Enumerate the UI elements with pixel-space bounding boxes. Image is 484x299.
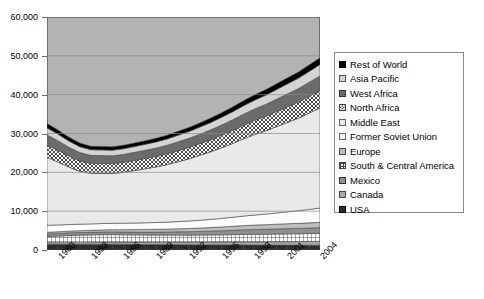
legend-item-label: Mexico (350, 175, 380, 186)
legend-item[interactable]: Mexico (339, 173, 463, 187)
legend-swatch-icon (339, 104, 346, 111)
chart-legend: Rest of WorldAsia PacificWest AfricaNort… (334, 52, 464, 213)
stacked-area-svg (47, 17, 320, 250)
x-axis: 198019831986198919921995199820012004 (0, 250, 484, 299)
legend-item-label: West Africa (350, 88, 398, 99)
y-axis: 010,00020,00030,00040,00050,00060,000 (0, 0, 47, 250)
legend-swatch-icon (339, 148, 346, 155)
legend-item-label: North Africa (350, 102, 400, 113)
legend-item-label: Rest of World (350, 59, 407, 70)
y-tick-label: 10,000 (10, 206, 38, 216)
y-tick-label: 50,000 (10, 51, 38, 61)
legend-item-label: Middle East (350, 117, 400, 128)
y-tick-label: 20,000 (10, 167, 38, 177)
legend-swatch-icon (339, 177, 346, 184)
legend-item[interactable]: Rest of World (339, 57, 463, 71)
chart-figure: 010,00020,00030,00040,00050,00060,000 19… (0, 0, 484, 299)
legend-item-label: USA (350, 204, 370, 215)
legend-item[interactable]: Canada (339, 188, 463, 202)
legend-item[interactable]: West Africa (339, 86, 463, 100)
legend-item-label: Former Soviet Union (350, 131, 437, 142)
legend-swatch-icon (339, 133, 346, 140)
legend-swatch-icon (339, 191, 346, 198)
legend-swatch-icon (339, 75, 346, 82)
legend-item[interactable]: Asia Pacific (339, 72, 463, 86)
legend-item[interactable]: South & Central America (339, 159, 463, 173)
legend-item-label: South & Central America (350, 160, 454, 171)
x-tick-label: 2004 (318, 240, 339, 261)
y-tick-label: 60,000 (10, 12, 38, 22)
legend-item-label: Europe (350, 146, 381, 157)
legend-item[interactable]: North Africa (339, 101, 463, 115)
legend-swatch-icon (339, 119, 346, 126)
y-tick-label: 30,000 (10, 129, 38, 139)
legend-swatch-icon (339, 162, 346, 169)
legend-item-label: Asia Pacific (350, 73, 399, 84)
legend-item[interactable]: Europe (339, 144, 463, 158)
legend-swatch-icon (339, 61, 346, 68)
legend-swatch-icon (339, 206, 346, 213)
legend-item[interactable]: Former Soviet Union (339, 130, 463, 144)
plot-area (47, 17, 320, 250)
y-tick-label: 40,000 (10, 90, 38, 100)
legend-item[interactable]: Middle East (339, 115, 463, 129)
area-layers (47, 58, 320, 250)
legend-item-label: Canada (350, 189, 383, 200)
legend-swatch-icon (339, 90, 346, 97)
legend-item[interactable]: USA (339, 202, 463, 216)
